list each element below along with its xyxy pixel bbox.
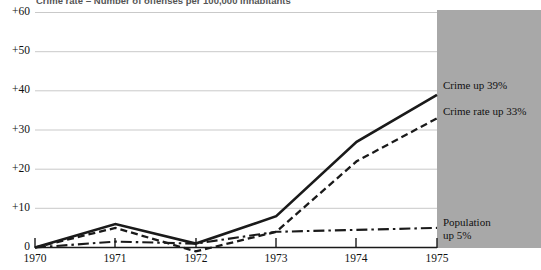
ytick-label-40: +40 (0, 84, 30, 96)
ytick-label-30: +30 (0, 124, 30, 136)
xtick-label-1970: 1970 (15, 252, 55, 264)
annotation-population-line1: Population (443, 216, 491, 228)
ytick-label-0: 0 (0, 241, 30, 253)
xtick-label-1975: 1975 (417, 252, 457, 264)
xtick-label-1971: 1971 (95, 252, 135, 264)
ytick-label-50: +50 (0, 45, 30, 57)
annotation-population: Population up 5% (443, 216, 535, 242)
xtick-label-1973: 1973 (256, 252, 296, 264)
gridlines (35, 13, 437, 209)
ytick-label-60: +60 (0, 6, 30, 18)
ytick-label-10: +10 (0, 202, 30, 214)
annotation-population-line2: up 5% (443, 229, 471, 241)
ytick-label-20: +20 (0, 163, 30, 175)
series-line-crime-rate (35, 118, 437, 251)
xtick-label-1972: 1972 (176, 252, 216, 264)
xtick-label-1974: 1974 (336, 252, 376, 264)
annotation-crime: Crime up 39% (443, 79, 507, 92)
series-line-crime (35, 95, 437, 248)
crime-rate-line-chart: Crime rate = Number of offenses per 100,… (0, 0, 541, 270)
annotation-crime-rate: Crime rate up 33% (443, 105, 526, 118)
